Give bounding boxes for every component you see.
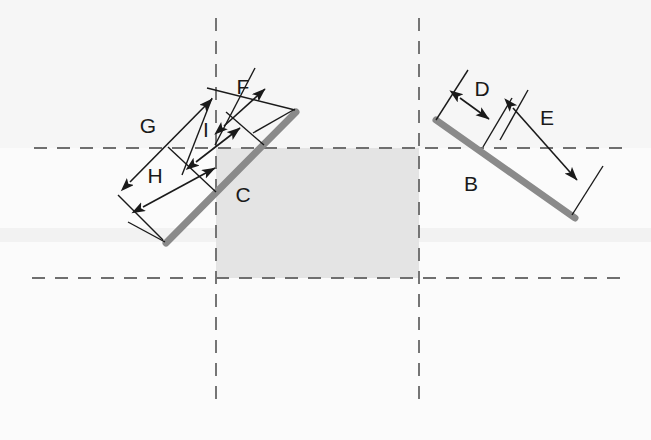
label-g: G [140, 114, 156, 137]
shaded-rectangle [216, 148, 419, 278]
diagram-canvas: G H I F D E C B [0, 0, 651, 440]
label-d: D [474, 77, 489, 100]
label-c: C [235, 183, 250, 206]
label-e: E [540, 106, 554, 129]
technical-diagram: G H I F D E C B [0, 0, 651, 440]
label-h: H [147, 164, 162, 187]
label-f: F [237, 75, 250, 98]
label-b: B [464, 172, 478, 195]
label-i: I [203, 118, 209, 141]
